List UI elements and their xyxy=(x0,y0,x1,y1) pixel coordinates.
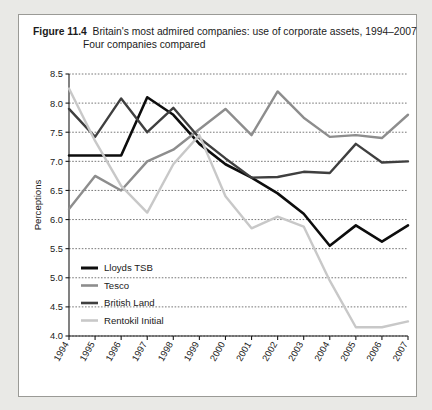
y-tick-labels-group: 4.04.55.05.56.06.57.07.58.08.5 xyxy=(50,69,69,341)
chart-plot-area: 4.04.55.05.56.06.57.07.58.08.5 199419951… xyxy=(19,15,418,398)
y-tick-label: 8.5 xyxy=(50,69,63,79)
legend-label: Tesco xyxy=(104,280,129,291)
y-tick-label: 6.0 xyxy=(50,215,63,225)
legend-label: Lloyds TSB xyxy=(104,262,153,273)
series-line-british-land xyxy=(69,98,408,177)
x-tick-label: 2004 xyxy=(312,340,331,363)
y-tick-label: 7.5 xyxy=(50,128,63,138)
series-line-tesco xyxy=(69,91,408,209)
y-tick-label: 7.0 xyxy=(50,157,63,167)
y-tick-label: 8.0 xyxy=(50,99,63,109)
x-tick-label: 2003 xyxy=(286,340,305,363)
x-tick-label: 1998 xyxy=(156,340,175,363)
x-tick-label: 1994 xyxy=(52,340,71,363)
x-tick-marks-group xyxy=(69,336,408,340)
y-tick-label: 6.5 xyxy=(50,186,63,196)
x-tick-label: 2001 xyxy=(234,340,253,363)
series-line-rentokil-initial xyxy=(69,89,408,328)
x-tick-label: 1995 xyxy=(78,340,97,363)
legend-label: British Land xyxy=(104,297,155,308)
legend-label: Rentokil Initial xyxy=(104,315,164,326)
y-axis-title-group: Perceptions xyxy=(32,179,43,230)
data-series-group xyxy=(69,89,408,328)
x-tick-label: 2000 xyxy=(208,340,227,363)
x-tick-label: 2006 xyxy=(365,340,384,363)
x-tick-label: 1996 xyxy=(104,340,123,363)
x-tick-label: 2005 xyxy=(339,340,358,363)
y-tick-label: 4.5 xyxy=(50,302,63,312)
y-tick-label: 5.5 xyxy=(50,244,63,254)
figure-panel: Figure 11.4 Britain's most admired compa… xyxy=(18,14,417,397)
y-axis-title: Perceptions xyxy=(32,179,43,230)
x-tick-label: 1997 xyxy=(130,340,149,363)
line-chart: 4.04.55.05.56.06.57.07.58.08.5 199419951… xyxy=(19,15,418,398)
x-tick-label: 1999 xyxy=(182,340,201,363)
y-tick-label: 5.0 xyxy=(50,273,63,283)
x-tick-label: 2002 xyxy=(260,340,279,363)
x-tick-label: 2007 xyxy=(391,340,410,363)
x-tick-labels-group: 1994199519961997199819992000200120022003… xyxy=(52,340,410,363)
chart-legend: Lloyds TSBTescoBritish LandRentokil Init… xyxy=(81,262,164,326)
series-line-lloyds-tsb xyxy=(69,97,408,245)
